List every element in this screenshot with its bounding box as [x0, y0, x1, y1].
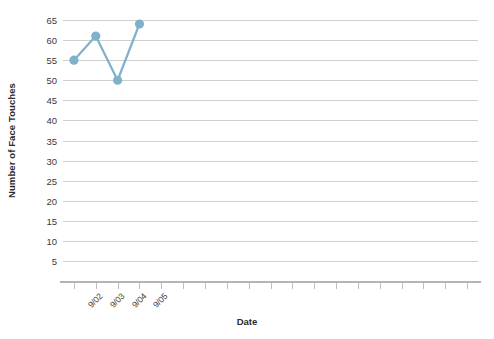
y-tick-label: 30	[46, 155, 57, 166]
x-axis-tick	[118, 283, 119, 289]
data-point-marker	[91, 31, 100, 40]
data-point-marker	[113, 76, 122, 85]
chart-screenshot: Number of Face Touches 51015202530354045…	[0, 0, 494, 339]
x-tick-label: 9/03	[108, 291, 127, 310]
y-tick-label: 20	[46, 195, 57, 206]
x-axis-tick	[205, 283, 206, 289]
x-axis-title: Date	[0, 316, 494, 327]
y-tick-label: 5	[52, 256, 57, 267]
gridline	[63, 261, 478, 262]
x-axis-ticks	[63, 283, 478, 290]
y-tick-label: 10	[46, 235, 57, 246]
y-axis-title: Number of Face Touches	[0, 0, 22, 281]
x-axis-tick	[139, 283, 140, 289]
series-polyline	[74, 24, 140, 80]
x-axis-tick	[423, 283, 424, 289]
x-axis-tick	[96, 283, 97, 289]
y-tick-label: 15	[46, 215, 57, 226]
x-axis-tick	[227, 283, 228, 289]
x-tick-label: 9/05	[151, 291, 170, 310]
y-tick-label: 25	[46, 175, 57, 186]
x-axis-tick	[467, 283, 468, 289]
x-axis-tick	[74, 283, 75, 289]
y-tick-label: 50	[46, 75, 57, 86]
y-tick-label: 35	[46, 135, 57, 146]
x-axis-tick	[249, 283, 250, 289]
plot-area: 5101520253035404550556065	[63, 20, 478, 261]
y-tick-label: 40	[46, 115, 57, 126]
y-axis-title-label: Number of Face Touches	[6, 83, 17, 198]
x-tick-labels: 9/029/039/049/05	[63, 291, 478, 317]
data-point-marker	[135, 19, 144, 28]
y-tick-label: 55	[46, 55, 57, 66]
x-tick-label: 9/02	[86, 291, 105, 310]
line-series	[63, 20, 478, 261]
x-axis-tick	[358, 283, 359, 289]
y-tick-label: 65	[46, 15, 57, 26]
x-axis-tick	[271, 283, 272, 289]
y-tick-label: 45	[46, 95, 57, 106]
x-axis-tick	[292, 283, 293, 289]
x-axis-tick	[402, 283, 403, 289]
data-point-marker	[69, 56, 78, 65]
x-axis-tick	[445, 283, 446, 289]
x-axis-tick	[336, 283, 337, 289]
x-axis-tick	[161, 283, 162, 289]
x-axis-tick	[380, 283, 381, 289]
x-tick-label: 9/04	[129, 291, 148, 310]
x-axis-tick	[183, 283, 184, 289]
x-axis-tick	[314, 283, 315, 289]
y-tick-label: 60	[46, 35, 57, 46]
